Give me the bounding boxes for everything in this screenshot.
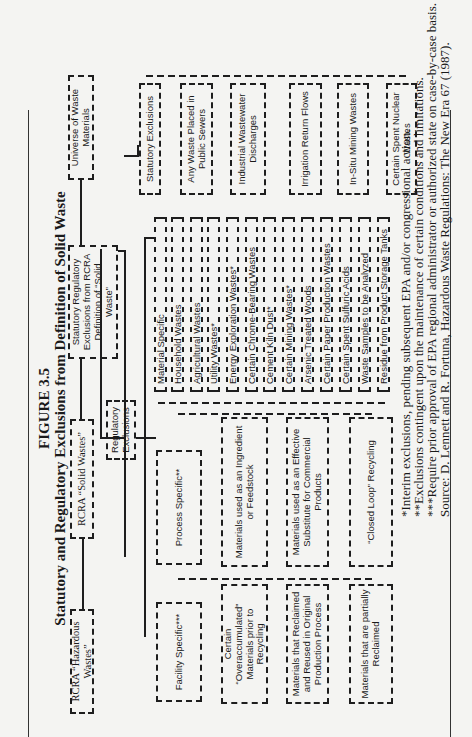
figure-number: FIGURE 3.5 [36, 40, 53, 737]
rcra-hazardous-wastes-box: RCRA “Hazardous Wastes” [70, 609, 94, 714]
process-item-1: Materials used as an Effective Substitut… [286, 417, 329, 567]
facility-item-2: Materials that are partially Reclaimed [349, 584, 393, 704]
connector [136, 437, 156, 439]
material-item-7: Certain Mining Wastes* [282, 217, 295, 392]
statutory-regulatory-box: Statutory Regulatory Exclusions from RCR… [68, 245, 118, 359]
universe-box: Universe of Waste Materials [68, 75, 94, 180]
statutory-item-3: In-Situ Mining Wastes [337, 83, 369, 195]
rotated-figure-page: FIGURE 3.5 Statutory and Regulatory Excl… [0, 0, 472, 737]
material-dashed-spine [158, 402, 388, 404]
figure-title: Statutory and Regulatory Exclusions from… [52, 40, 69, 737]
material-item-3: Utility Wastes* [207, 217, 220, 392]
rcra-solid-wastes-box: RCRA “Solid Wastes” [70, 419, 94, 539]
process-item-2: “Closed Loop” Recycling [349, 417, 393, 567]
material-item-0: Material Specific [154, 217, 167, 392]
regulatory-spine [144, 237, 146, 637]
material-item-9: Certain Paper Production Wastes [320, 217, 333, 392]
material-item-4: Energy Exploration Wastes* [226, 217, 239, 392]
regulatory-exclusions-box: Regulatory Exclusions [106, 400, 136, 460]
facility-item-1: Materials that Reclaimed and Reused in O… [286, 584, 329, 704]
statutory-item-2: Irrigation Return Flows [289, 83, 322, 195]
material-item-11: Waste Samples to be Analyzed [358, 217, 371, 392]
process-dashed-spine [178, 413, 376, 415]
connector [144, 237, 154, 239]
material-item-1: Household Wastes [171, 217, 184, 392]
material-item-5: Certain Chrome-Bearing Wastes [245, 217, 258, 392]
statutory-exclusions-box: Statutory Exclusions [139, 83, 161, 195]
facility-item-0: Certain “Overaccumulated” Materials prio… [221, 584, 268, 704]
material-item-6: Cement Kiln Dust* [263, 217, 276, 392]
connector [80, 180, 82, 245]
material-item-12: Residue from Product Storage Tanks [377, 217, 390, 392]
footnote-source: Source: D. Lennett and R. Fortuna, Hazar… [437, 42, 453, 517]
connector [124, 155, 138, 157]
page-border-top [28, 110, 29, 737]
connector [82, 539, 84, 609]
material-item-10: Certain Spent Sulfuric Acids [339, 217, 352, 392]
material-item-2: Agricultural Wastes [190, 217, 203, 392]
process-item-0: Materials used as an Ingredient or Feeds… [221, 417, 268, 567]
statutory-item-1: Industrial Wastewater Discharges [230, 83, 266, 195]
statutory-dashed-spine [146, 75, 406, 77]
facility-dashed-spine [178, 578, 376, 580]
facility-specific-box: Facility Specific*** [156, 602, 202, 702]
statutory-item-0: Any Waste Placed in Public Sewers [180, 83, 213, 195]
trunk-horizontal [100, 249, 102, 439]
connector [80, 359, 82, 419]
material-item-8: Arsenic Treated Woods [301, 217, 314, 392]
process-specific-box: Process Specific** [156, 450, 202, 565]
